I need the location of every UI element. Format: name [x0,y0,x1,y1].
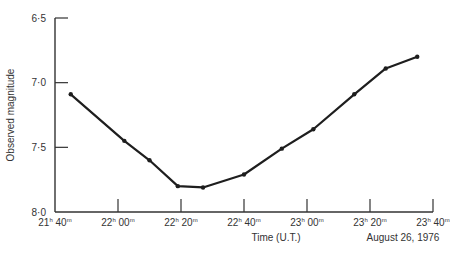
magnitude-chart: 6·57·07·58·0 21h 40m22h 00m22h 20m22h 40… [0,0,464,256]
x-tick-label: 21h 40m [38,217,71,228]
data-point [147,158,151,162]
data-point [311,127,315,131]
y-tick-label: 7·5 [32,142,47,153]
x-axis-ticks: 21h 40m22h 00m22h 20m22h 40m23h 00m23h 2… [38,199,449,228]
data-point [280,146,284,150]
y-axis-ticks: 6·57·07·58·0 [32,13,68,218]
date-annotation: August 26, 1976 [367,232,440,243]
data-point [384,66,388,70]
data-point [69,92,73,96]
x-tick-label: 23h 00m [290,217,323,228]
x-tick-label: 22h 20m [164,217,197,228]
x-axis-label: Time (U.T.) [251,232,300,243]
data-series [69,55,420,190]
data-point [415,55,419,59]
data-point [201,185,205,189]
y-tick-label: 6·5 [32,13,47,24]
x-tick-label: 23h 20m [353,217,386,228]
magnitude-line [71,57,418,188]
axes [55,18,433,212]
data-point [122,139,126,143]
data-point [242,172,246,176]
data-point [352,92,356,96]
y-axis-label: Observed magnitude [5,68,16,161]
y-tick-label: 8·0 [32,207,47,218]
x-tick-label: 22h 40m [227,217,260,228]
y-tick-label: 7·0 [32,77,47,88]
data-point [176,184,180,188]
x-tick-label: 23h 40m [416,217,449,228]
x-tick-label: 22h 00m [101,217,134,228]
